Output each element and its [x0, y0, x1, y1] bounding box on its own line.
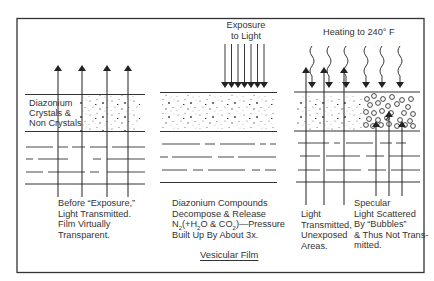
- layer-label-line: Crystals &: [29, 108, 82, 118]
- panel-exposure: [160, 44, 277, 183]
- description-line: By “Bubbles”: [354, 219, 428, 230]
- formula-part: (+H: [182, 219, 197, 229]
- description-line: Built Up By About 3x.: [172, 230, 285, 241]
- figure-caption: Vesicular Film: [200, 250, 258, 261]
- description-line: Unexposed: [301, 230, 352, 241]
- scattered-description: Specular Light Scattered By “Bubbles” & …: [354, 198, 428, 251]
- description-line: Decompose & Release: [172, 209, 285, 220]
- panel-before-exposure: [25, 68, 145, 197]
- before-exposure-description: Before “Exposure,” Light Transmitted. Fi…: [58, 198, 135, 240]
- description-line: Light: [301, 209, 352, 220]
- vesicular-film-diagram: Diazonium Crystals & Non Crystals Before…: [0, 0, 434, 281]
- transmitted-description: Light Transmitted, Unexposed Areas.: [301, 209, 352, 251]
- heating-label: Heating to 240° F: [323, 27, 395, 38]
- layer-label-line: Diazonium: [29, 98, 82, 108]
- description-line: Diazonium Compounds: [172, 198, 285, 209]
- exposure-label-line: to Light: [226, 31, 266, 42]
- formula-part: O & CO: [200, 219, 232, 229]
- description-line: Areas.: [301, 241, 352, 252]
- panel-heating: [294, 46, 420, 205]
- description-line: Light Scattered: [354, 209, 428, 220]
- description-line: Transmitted,: [301, 220, 352, 231]
- description-line: mitted.: [354, 240, 428, 251]
- layer-label-line: Non Crystals: [29, 118, 82, 128]
- description-line: Film Virtually: [58, 219, 135, 230]
- formula-part: )—Pressure: [236, 219, 285, 229]
- description-line: Transparent.: [58, 230, 135, 241]
- description-line: & Thus Not Trans-: [354, 230, 428, 241]
- exposure-label: Exposure to Light: [226, 20, 266, 41]
- exposure-label-line: Exposure: [226, 20, 266, 31]
- exposure-description: Diazonium Compounds Decompose & Release …: [172, 198, 285, 240]
- description-line: Specular: [354, 198, 428, 209]
- description-line-formula: N2(+H2O & CO2)—Pressure: [172, 219, 285, 230]
- description-line: Light Transmitted.: [58, 209, 135, 220]
- description-line: Before “Exposure,”: [58, 198, 135, 209]
- layer-label: Diazonium Crystals & Non Crystals: [29, 98, 82, 129]
- formula-part: N: [172, 219, 179, 229]
